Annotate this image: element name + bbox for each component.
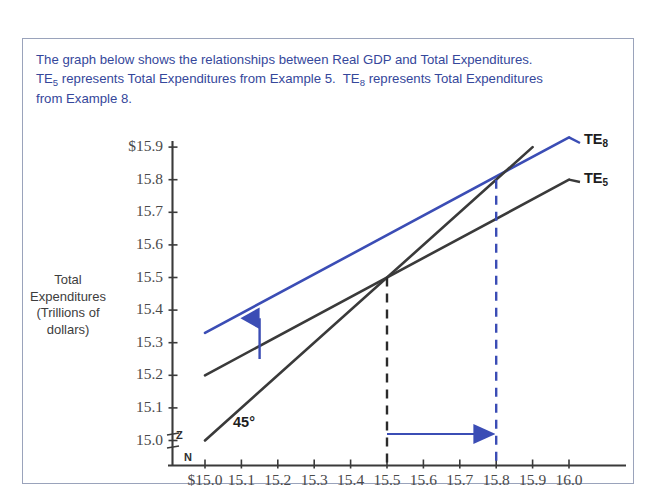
y-tick-label: 15.1 bbox=[95, 398, 163, 416]
series-label-te5-subscript: 5 bbox=[603, 177, 609, 188]
series-label-te5-text: TE bbox=[584, 170, 603, 186]
series-line-45-degree-line bbox=[205, 147, 533, 440]
figure-page: The graph below shows the relationships … bbox=[0, 0, 657, 489]
series-label-te5: TE5 bbox=[584, 170, 608, 186]
y-tick-label: 15.8 bbox=[95, 170, 163, 188]
y-tick-label: 15.4 bbox=[95, 300, 163, 318]
series-label-45-degree: 45° bbox=[233, 414, 255, 430]
y-tick-label: 15.6 bbox=[95, 235, 163, 253]
chart-plot-area: 15.015.115.215.315.415.515.615.715.8$15.… bbox=[0, 0, 657, 489]
y-tick-label: 15.0 bbox=[95, 431, 163, 449]
series-group bbox=[205, 137, 580, 440]
series-label-te8-subscript: 8 bbox=[603, 138, 609, 149]
y-tick-label: 15.3 bbox=[95, 333, 163, 351]
axis-break-mark-upper bbox=[167, 433, 179, 435]
leader-line-te5 bbox=[569, 180, 580, 182]
axis-break-mark-lower bbox=[167, 446, 179, 448]
y-tick-label: 15.2 bbox=[95, 365, 163, 383]
series-label-te8: TE8 bbox=[584, 131, 608, 147]
annotations-group bbox=[260, 180, 497, 466]
leader-line-te8 bbox=[569, 137, 580, 143]
y-tick-label: $15.9 bbox=[95, 137, 163, 155]
series-label-te8-text: TE bbox=[584, 131, 603, 147]
y-tick-label: 15.5 bbox=[95, 268, 163, 286]
series-line-te8 bbox=[205, 137, 569, 333]
y-tick-label: 15.7 bbox=[95, 202, 163, 220]
x-tick-label: 16.0 bbox=[535, 471, 603, 489]
